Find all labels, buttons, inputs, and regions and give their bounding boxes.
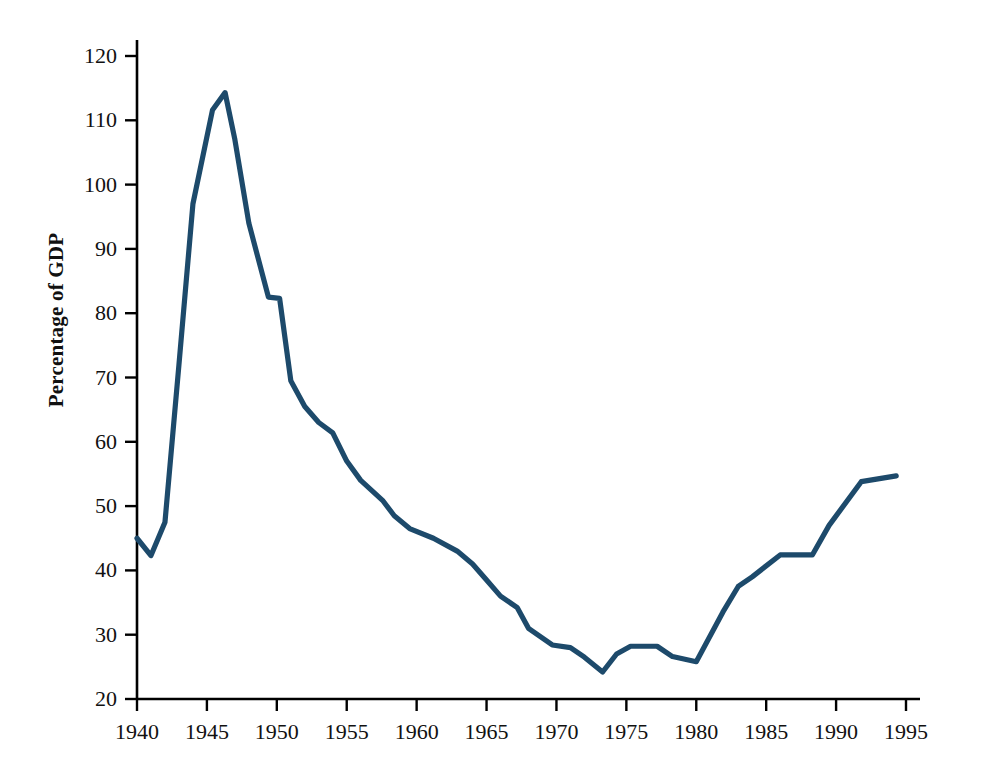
x-axis-tick-label: 1975 [604,719,648,745]
x-axis-tick-label: 1970 [534,719,578,745]
y-axis-tick-label: 100 [84,172,117,198]
y-axis-tick-label: 30 [95,622,117,648]
x-axis-tick-label: 1950 [255,719,299,745]
x-axis-tick-label: 1945 [185,719,229,745]
x-axis-tick-label: 1955 [325,719,369,745]
y-axis-tick-label: 120 [84,43,117,69]
y-axis-tick-label: 110 [85,107,117,133]
x-axis-tick-label: 1990 [814,719,858,745]
y-axis-tick-label: 60 [95,429,117,455]
y-axis-tick-label: 80 [95,300,117,326]
y-axis-tick-label: 90 [95,236,117,262]
x-axis-tick-label: 1980 [674,719,718,745]
line-chart-plot [0,0,983,782]
y-axis-tick-label: 70 [95,365,117,391]
x-axis-ticks [137,699,906,711]
y-axis-tick-label: 50 [95,493,117,519]
series-line-debt-percentage-of-gdp [137,93,896,672]
y-axis-tick-label: 20 [95,686,117,712]
x-axis-tick-label: 1960 [395,719,439,745]
y-axis-tick-label: 40 [95,557,117,583]
axis-lines [137,40,920,699]
y-axis-ticks [125,56,137,699]
x-axis-tick-label: 1995 [884,719,928,745]
x-axis-tick-label: 1965 [465,719,509,745]
chart-container: Percentage of GDP 2030405060708090100110… [0,0,983,782]
x-axis-tick-label: 1940 [115,719,159,745]
x-axis-tick-label: 1985 [744,719,788,745]
